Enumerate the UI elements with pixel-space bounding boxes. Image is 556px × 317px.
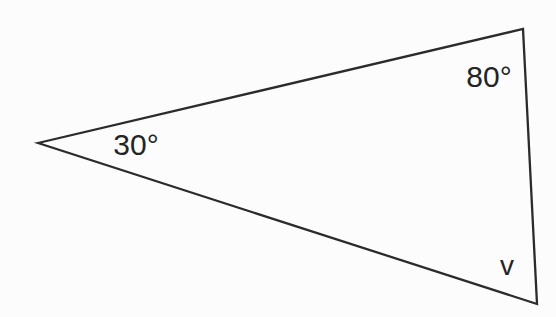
angle-label-top-right-80: 80°	[466, 60, 511, 93]
angle-label-bottom-right-v: v	[500, 250, 514, 281]
diagram-canvas: 30° 80° v	[0, 0, 556, 317]
triangle-figure: 30° 80° v	[0, 0, 556, 317]
angle-label-left-30: 30°	[113, 128, 158, 161]
